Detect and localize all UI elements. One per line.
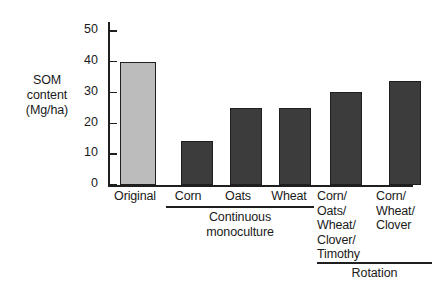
x-label-rotation-1: Corn/ Oats/ Wheat/ Clover/ Timothy xyxy=(317,189,373,262)
group-rule-continuous-monoculture xyxy=(166,206,314,208)
bar-original xyxy=(120,62,156,185)
x-label-rotation-1-line-4: Clover/ xyxy=(317,233,373,248)
x-label-rotation-1-line-3: Wheat/ xyxy=(317,218,373,233)
x-axis-category-labels: Original Corn Oats Wheat Corn/ Oats/ Whe… xyxy=(108,189,418,297)
y-axis-line xyxy=(108,22,110,187)
x-label-original: Original xyxy=(104,189,166,204)
y-tick-30: 30 xyxy=(110,92,117,94)
group-label-continuous-monoculture-line-2: monoculture xyxy=(166,225,314,240)
group-label-continuous-monoculture-line-1: Continuous xyxy=(166,210,314,225)
bar-rotation-corn-wheat-clover xyxy=(389,81,421,185)
plot-area: 0 10 20 30 40 50 xyxy=(108,22,413,187)
bar-corn xyxy=(181,141,213,185)
x-label-oats: Oats xyxy=(214,189,262,204)
x-label-rotation-1-line-2: Oats/ xyxy=(317,204,373,219)
x-label-corn: Corn xyxy=(164,189,212,204)
x-label-rotation-2: Corn/ Wheat/ Clover xyxy=(376,189,432,233)
x-label-rotation-1-line-5: Timothy xyxy=(317,247,373,262)
group-label-rotation-line-1: Rotation xyxy=(317,266,432,281)
group-label-rotation: Rotation xyxy=(317,266,432,281)
group-rule-rotation xyxy=(317,262,432,264)
y-tick-label-30: 30 xyxy=(68,84,98,99)
y-tick-10: 10 xyxy=(110,153,117,155)
x-label-corn-line-1: Corn xyxy=(164,189,212,204)
x-label-original-line-1: Original xyxy=(104,189,166,204)
y-tick-label-0: 0 xyxy=(68,176,98,191)
y-tick-40: 40 xyxy=(110,61,117,63)
y-tick-label-40: 40 xyxy=(68,53,98,68)
x-label-wheat-line-1: Wheat xyxy=(262,189,316,204)
group-label-continuous-monoculture: Continuous monoculture xyxy=(166,210,314,240)
x-label-rotation-2-line-2: Wheat/ xyxy=(376,204,432,219)
x-label-rotation-2-line-3: Clover xyxy=(376,218,432,233)
bar-wheat xyxy=(279,108,311,185)
x-label-rotation-2-line-1: Corn/ xyxy=(376,189,432,204)
y-tick-0: 0 xyxy=(110,184,117,186)
bar-oats xyxy=(230,108,262,185)
y-tick-20: 20 xyxy=(110,123,117,125)
x-axis-line xyxy=(108,185,413,187)
x-label-rotation-1-line-1: Corn/ xyxy=(317,189,373,204)
x-label-oats-line-1: Oats xyxy=(214,189,262,204)
y-tick-label-20: 20 xyxy=(68,115,98,130)
x-label-wheat: Wheat xyxy=(262,189,316,204)
y-tick-label-50: 50 xyxy=(68,22,98,37)
y-tick-50: 50 xyxy=(110,30,117,32)
y-tick-label-10: 10 xyxy=(68,145,98,160)
bar-rotation-corn-oats-wheat-clover-timothy xyxy=(330,92,362,185)
